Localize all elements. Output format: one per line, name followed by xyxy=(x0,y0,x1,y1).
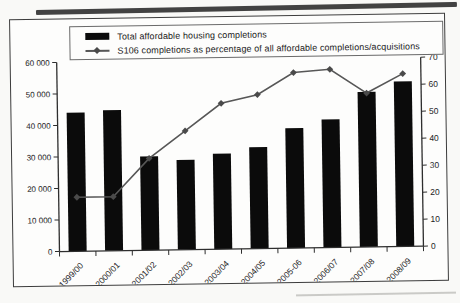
category-label: 2004/05 xyxy=(239,258,268,287)
category-label: 2002/03 xyxy=(166,259,195,286)
category-label: 2007/08 xyxy=(348,256,377,285)
scan-smudge xyxy=(296,292,456,297)
right-tick-label: 60 xyxy=(428,79,438,89)
chart-frame: Total affordable housing completions S10… xyxy=(9,13,449,287)
right-tick-label: 40 xyxy=(429,133,439,143)
left-tick-label: 30 000 xyxy=(27,153,52,162)
category-labels: 1999/002000/012001/022002/032003/042004/… xyxy=(56,255,413,286)
bar-2005-06 xyxy=(285,128,305,248)
category-label: 2005-06 xyxy=(275,257,304,286)
category-label: 2000/01 xyxy=(93,260,122,286)
bars-series xyxy=(66,81,414,251)
right-tick-label: 20 xyxy=(430,187,440,197)
bar-2006/07 xyxy=(322,119,342,247)
bar-2003/04 xyxy=(213,154,232,250)
bar-2004/05 xyxy=(249,147,269,249)
right-tick-label: 0 xyxy=(431,241,436,251)
bar-2002/03 xyxy=(177,160,196,250)
bar-2000/01 xyxy=(103,110,123,251)
category-label: 2001/02 xyxy=(130,259,159,286)
bar-2007/08 xyxy=(358,92,378,247)
left-tick-label: 40 000 xyxy=(26,122,51,131)
bar-swatch-icon xyxy=(85,33,109,40)
left-axis: 010 00020 00030 00040 00050 00060 000 xyxy=(25,59,59,257)
category-label: 2003/04 xyxy=(202,258,231,286)
legend-label-bars: Total affordable housing completions xyxy=(117,29,267,41)
bar-2008/09 xyxy=(394,81,414,246)
right-tick-label: 50 xyxy=(429,106,439,116)
scanned-figure-page: Total affordable housing completions S10… xyxy=(0,0,460,303)
line-point-2008/09 xyxy=(399,70,406,77)
bar-1999/00 xyxy=(67,113,87,252)
category-label: 2008/09 xyxy=(384,256,413,285)
left-tick-label: 20 000 xyxy=(27,185,52,194)
left-tick-label: 50 000 xyxy=(26,90,51,99)
left-tick-label: 60 000 xyxy=(25,59,50,68)
category-label: 2006/07 xyxy=(312,257,341,286)
left-tick-label: 10 000 xyxy=(27,216,52,225)
left-tick-label: 0 xyxy=(48,248,53,257)
bar-2001/02 xyxy=(140,156,159,250)
right-tick-label: 30 xyxy=(430,160,440,170)
line-marker-icon xyxy=(85,47,109,54)
right-tick-label: 10 xyxy=(430,214,440,224)
category-label: 1999/00 xyxy=(57,260,86,286)
legend-label-line: S106 completions as percentage of all af… xyxy=(117,41,419,55)
legend: Total affordable housing completions S10… xyxy=(69,21,443,61)
